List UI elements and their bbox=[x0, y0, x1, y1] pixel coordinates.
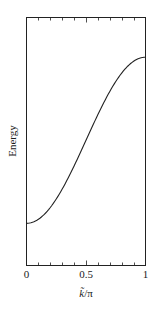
energy-band-chart: 0 0.5 1 k̃/π Energy bbox=[0, 0, 154, 309]
x-tick-label-1: 1 bbox=[143, 268, 149, 280]
energy-dispersion-curve bbox=[27, 57, 146, 223]
x-axis-label: k̃/π bbox=[79, 287, 93, 299]
top-axis-ticks bbox=[39, 18, 135, 23]
bottom-axis-ticks bbox=[39, 261, 135, 266]
x-tick-label-0: 0 bbox=[24, 268, 30, 280]
x-tick-label-0-5: 0.5 bbox=[79, 268, 93, 280]
y-axis-label: Energy bbox=[6, 125, 18, 157]
x-axis-label-suffix: /π bbox=[84, 287, 93, 299]
